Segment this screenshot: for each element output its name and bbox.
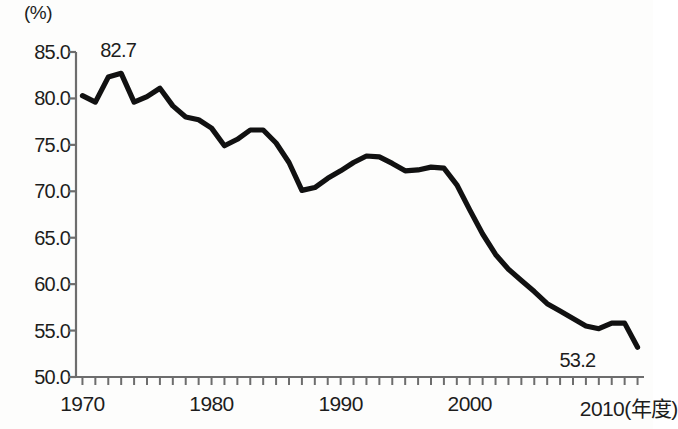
- data-line: [82, 73, 637, 347]
- data-series-group: [82, 73, 637, 347]
- y-axis-ticks: [68, 52, 76, 377]
- x-axis-ticks: [82, 377, 637, 385]
